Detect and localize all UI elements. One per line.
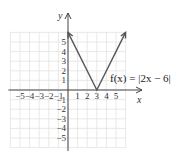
y-tick-label: −1 — [56, 95, 66, 105]
x-tick-label: −3 — [34, 91, 44, 101]
y-tick-label: 5 — [62, 37, 67, 47]
y-tick-label: 4 — [62, 47, 67, 57]
graph: −5−4−3−2−112345 54321−1−2−3−4−5 x y f(x)… — [0, 0, 183, 157]
x-tick-label: −4 — [25, 91, 35, 101]
x-tick-label: 5 — [114, 91, 119, 101]
y-tick-label: 2 — [62, 66, 67, 76]
y-axis-label: y — [57, 10, 63, 21]
y-tick-label: 3 — [62, 56, 67, 66]
x-tick-label: 4 — [104, 91, 109, 101]
y-tick-label: −2 — [56, 104, 66, 114]
y-tick-label: −5 — [56, 133, 66, 143]
x-tick-label: −5 — [15, 91, 25, 101]
y-tick-label: 1 — [62, 75, 67, 85]
x-axis-label: x — [136, 94, 142, 105]
y-tick-label: −3 — [56, 114, 66, 124]
x-tick-label: 3 — [95, 91, 100, 101]
x-tick-label: −2 — [44, 91, 54, 101]
y-tick-label: −4 — [56, 123, 66, 133]
x-tick-label: 1 — [75, 91, 80, 101]
equation-label: f(x) = |2x − 6| — [110, 72, 171, 85]
x-tick-label: 2 — [85, 91, 90, 101]
